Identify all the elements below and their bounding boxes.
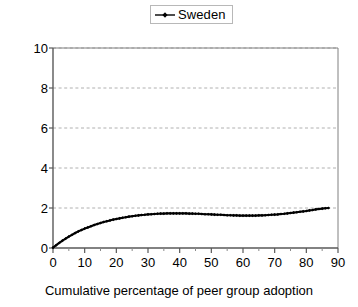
plot-frame	[53, 48, 338, 248]
plot-area	[0, 0, 358, 307]
gridlines	[53, 48, 338, 208]
data-series-sweden	[51, 206, 330, 249]
axis-ticks	[49, 48, 338, 253]
chart-container: Sweden Predicted effect 10 8 6 4 2 0 0 1…	[0, 0, 358, 307]
